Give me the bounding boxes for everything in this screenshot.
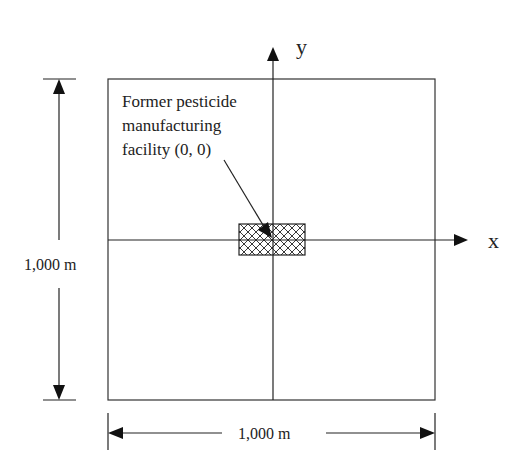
x-axis-label: x <box>488 228 499 253</box>
dimension-arrow-down-icon <box>53 385 65 400</box>
y-axis-arrow-icon <box>267 47 279 61</box>
vertical-dimension-label: 1,000 m <box>24 256 77 273</box>
dimension-arrow-up-icon <box>53 79 65 94</box>
x-axis-arrow-icon <box>454 234 468 246</box>
facility-label-line-3: facility (0, 0) <box>122 140 211 159</box>
facility-label-line-2: manufacturing <box>122 116 222 135</box>
dimension-arrow-right-icon <box>420 427 435 439</box>
vertical-dimension <box>43 79 76 400</box>
facility-label-line-1: Former pesticide <box>122 92 237 111</box>
y-axis-label: y <box>296 34 307 59</box>
site-diagram: y x Former pesticide manufacturing facil… <box>0 0 532 466</box>
dimension-arrow-left-icon <box>108 427 123 439</box>
horizontal-dimension-label: 1,000 m <box>238 425 291 442</box>
